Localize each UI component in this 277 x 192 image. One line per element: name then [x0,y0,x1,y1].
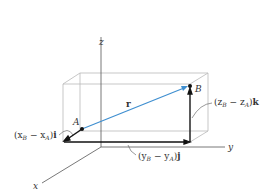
vector-r-label: r [126,100,131,109]
point-b [188,84,192,88]
component-arrows [64,88,192,144]
x-axis [42,147,101,183]
point-a-label: A [73,118,80,127]
i-component-label: (xB − xA)i [14,131,57,141]
point-a [80,127,84,131]
point-b-label: B [195,85,202,94]
y-axis-label: y [228,143,233,152]
diagram-canvas [0,0,277,192]
j-component-label: (yB − yA)j [138,152,181,162]
z-axis-label: z [99,38,104,47]
vector-r [82,86,188,129]
x-axis-label: x [33,182,38,191]
k-component-label: (zB − zA)k [214,98,259,108]
